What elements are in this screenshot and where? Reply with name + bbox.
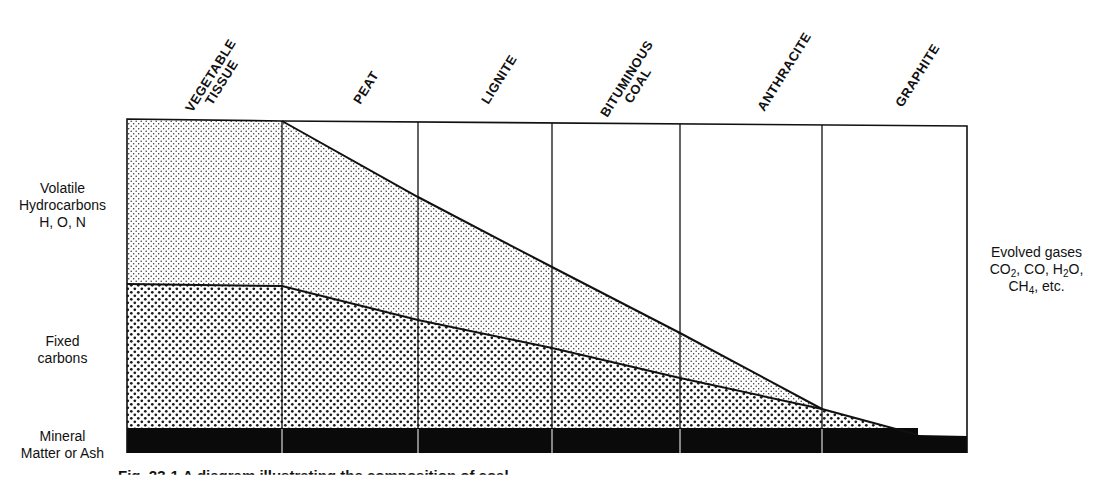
coalification-diagram bbox=[0, 0, 1103, 484]
mineral-ash-band bbox=[127, 428, 967, 453]
